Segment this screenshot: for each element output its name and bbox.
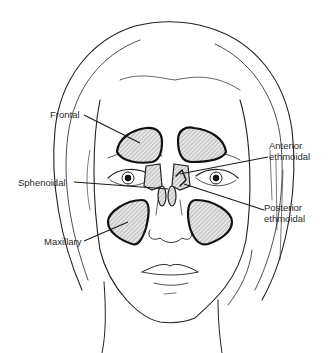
sinus-diagram: Frontal Anterior ethmoidal Sphenoidal Po… (0, 0, 330, 353)
ethmoidal-sinus-left (144, 164, 162, 190)
right-eye (196, 169, 238, 185)
label-frontal: Frontal (50, 109, 80, 120)
label-posterior-ethmoidal-line1: Posterior (264, 202, 305, 213)
nose (149, 200, 192, 243)
label-posterior-ethmoidal: Posterior ethmoidal (264, 202, 305, 224)
hair-outline (54, 22, 294, 300)
sphenoidal-sinus-right (168, 186, 176, 206)
leader-frontal (84, 115, 140, 143)
mouth (142, 264, 198, 294)
label-anterior-ethmoidal: Anterior ethmoidal (269, 140, 310, 162)
leader-lines (74, 115, 268, 241)
maxillary-sinus-right (188, 200, 232, 244)
label-anterior-ethmoidal-line2: ethmoidal (269, 151, 310, 162)
frontal-sinus-right (178, 128, 226, 163)
label-posterior-ethmoidal-line2: ethmoidal (264, 213, 305, 224)
maxillary-sinus-left (108, 200, 149, 244)
label-anterior-ethmoidal-line1: Anterior (269, 140, 310, 151)
frontal-sinus-left (117, 128, 162, 163)
label-sphenoidal: Sphenoidal (18, 177, 66, 188)
label-maxillary: Maxillary (44, 236, 81, 247)
